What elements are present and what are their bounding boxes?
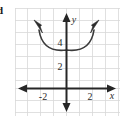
x-tick-label-negative-2: -2 [39, 91, 47, 102]
x-axis-name-label: x [109, 90, 115, 101]
y-axis-name-label: y [71, 14, 77, 25]
plot-area: -2 2 2 4 x y [15, 8, 120, 116]
coordinate-plane: -2 2 2 4 x y [15, 8, 120, 116]
curve-arrowhead-right [91, 20, 100, 33]
y-tick-label-2: 2 [58, 61, 63, 72]
x-tick-label-2: 2 [88, 91, 93, 102]
curve-arrowhead-left [34, 20, 43, 33]
y-axis [63, 13, 71, 112]
answer-choice-letter: d [0, 3, 7, 17]
y-tick-label-4: 4 [58, 37, 63, 48]
graph-screenshot: d [0, 0, 124, 121]
